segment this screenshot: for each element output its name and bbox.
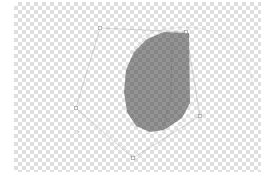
transparent-canvas[interactable] [14, 2, 261, 172]
canvas-gutter-bottom [0, 172, 261, 188]
canvas-white-wash [14, 2, 261, 172]
canvas-gutter-left [0, 0, 14, 188]
editor-canvas-window [0, 0, 261, 188]
canvas-gutter-top [0, 0, 261, 2]
